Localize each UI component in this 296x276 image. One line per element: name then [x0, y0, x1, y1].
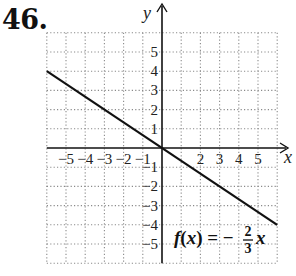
x-tick-label: −4: [77, 151, 93, 167]
x-tick-label: 5: [254, 151, 262, 167]
x-axis-label: x: [283, 147, 292, 167]
x-tick-label: −3: [96, 151, 112, 167]
svg-text:f(x) = −: f(x) = −: [174, 227, 234, 249]
y-tick-label: 5: [151, 44, 159, 60]
coordinate-graph: −5−4−3−2−1234554321−1−2−3−4−5 x y f(x) =…: [0, 0, 296, 276]
x-tick-label: 2: [197, 151, 205, 167]
y-tick-label: −3: [142, 198, 158, 214]
y-tick-label: 4: [151, 63, 159, 79]
y-tick-label: −1: [142, 159, 158, 175]
y-tick-label: 3: [151, 82, 159, 98]
y-axis-label: y: [141, 3, 151, 23]
y-tick-label: 1: [151, 121, 159, 137]
function-eq: ) = −: [196, 227, 233, 249]
fraction-numerator: 2: [245, 224, 252, 239]
y-tick-label: −5: [142, 236, 158, 252]
x-tick-label: 4: [235, 151, 243, 167]
x-tick-label: 3: [216, 151, 224, 167]
x-tick-label: −2: [116, 151, 132, 167]
x-tick-label: −5: [58, 151, 74, 167]
y-tick-label: −2: [142, 178, 158, 194]
function-var: x: [186, 227, 197, 248]
y-tick-label: 2: [151, 102, 159, 118]
y-tick-label: −4: [142, 217, 158, 233]
function-suffix: x: [255, 227, 266, 248]
fraction-denominator: 3: [245, 241, 252, 256]
